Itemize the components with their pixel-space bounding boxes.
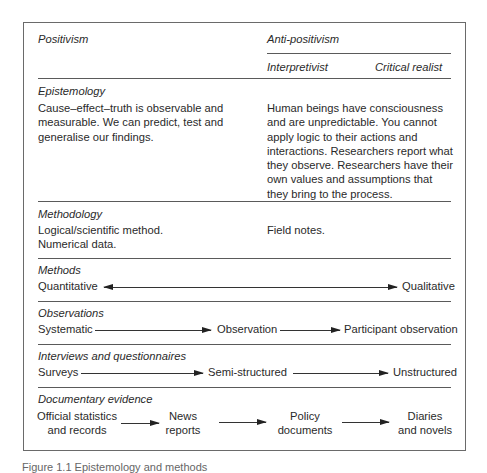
interviews-step-2: Semi-structured xyxy=(208,366,287,378)
documentary-step-1-line2: and records xyxy=(36,423,118,437)
arrow-right-icon xyxy=(280,330,340,331)
figure-caption: Figure 1.1 Epistemology and methods xyxy=(22,461,207,473)
divider-header xyxy=(38,78,451,79)
divider-epistemology xyxy=(38,201,451,202)
double-arrow-icon xyxy=(104,287,397,288)
header-positivism: Positivism xyxy=(38,33,88,45)
documentary-step-2-line2: reports xyxy=(160,423,206,437)
divider-observations xyxy=(38,344,451,345)
documentary-step-4-line2: and novels xyxy=(394,423,456,437)
arrow-right-icon xyxy=(95,330,211,331)
observations-step-3: Participant observation xyxy=(344,323,458,335)
arrow-right-icon xyxy=(342,422,389,423)
methods-quantitative: Quantitative xyxy=(38,280,98,292)
interviews-step-3: Unstructured xyxy=(393,366,457,378)
methodology-positivism-line1: Logical/scientific method. xyxy=(38,224,163,236)
methodology-positivism-line2: Numerical data. xyxy=(38,238,116,250)
documentary-step-3-line1: Policy xyxy=(270,409,340,423)
documentary-step-4: Diaries and novels xyxy=(394,409,456,437)
documentary-step-3-line2: documents xyxy=(270,423,340,437)
arrow-right-icon xyxy=(293,373,388,374)
epistemology-positivism-text: Cause–effect–truth is observable and mea… xyxy=(38,101,238,144)
divider-anti-positivism xyxy=(267,53,451,54)
interviews-step-1: Surveys xyxy=(38,366,78,378)
section-label-interviews: Interviews and questionnaires xyxy=(38,350,186,362)
arrow-right-icon xyxy=(81,373,203,374)
section-label-epistemology: Epistemology xyxy=(38,85,105,97)
section-label-methodology: Methodology xyxy=(38,208,102,220)
documentary-step-1-line1: Official statistics xyxy=(36,409,118,423)
methods-qualitative: Qualitative xyxy=(402,280,455,292)
divider-methodology xyxy=(38,258,451,259)
divider-methods xyxy=(38,301,451,302)
documentary-step-2-line1: News xyxy=(160,409,206,423)
documentary-step-1: Official statistics and records xyxy=(36,409,118,437)
section-label-documentary: Documentary evidence xyxy=(38,393,152,405)
divider-interviews xyxy=(38,387,451,388)
header-anti-positivism: Anti-positivism xyxy=(267,33,339,45)
observations-step-2: Observation xyxy=(217,323,277,335)
section-label-observations: Observations xyxy=(38,307,104,319)
documentary-step-2: News reports xyxy=(160,409,206,437)
arrow-right-icon xyxy=(219,422,266,423)
arrow-right-icon xyxy=(121,423,159,424)
header-interpretivist: Interpretivist xyxy=(267,61,328,73)
documentary-step-3: Policy documents xyxy=(270,409,340,437)
epistemology-anti-positivism-text: Human beings have consciousness and are … xyxy=(267,101,453,201)
observations-step-1: Systematic xyxy=(38,323,93,335)
section-label-methods: Methods xyxy=(38,264,81,276)
documentary-step-4-line1: Diaries xyxy=(394,409,456,423)
header-critical-realist: Critical realist xyxy=(375,61,442,73)
methodology-anti-positivism-text: Field notes. xyxy=(267,224,325,236)
